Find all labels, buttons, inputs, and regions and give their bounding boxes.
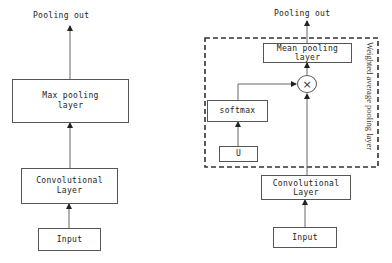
max-pooling-line2: layer (42, 101, 98, 111)
left-pooling-out-label: Pooling out (33, 11, 89, 20)
mean-pooling-layer-box: Mean pooling layer (263, 43, 352, 63)
right-conv-line2: Layer (273, 188, 340, 197)
multiply-icon: × (302, 79, 311, 90)
connector-layer (0, 0, 392, 263)
softmax-box: softmax (207, 100, 268, 122)
left-conv-line1: Convolutional (36, 176, 103, 186)
right-input-label: Input (292, 233, 318, 243)
right-conv-line1: Convolutional (273, 179, 340, 188)
arrow-softmax-to-multiply (238, 84, 296, 100)
u-label: U (236, 149, 241, 159)
mean-pooling-line1: Mean pooling (277, 44, 338, 53)
left-conv-line2: Layer (36, 186, 103, 196)
u-box: U (219, 146, 258, 162)
softmax-label: softmax (220, 106, 256, 116)
weighted-average-pooling-label: Weighted average pooling layer (365, 42, 375, 150)
mean-pooling-line2: layer (277, 53, 338, 62)
multiply-node: × (297, 75, 317, 93)
right-convolutional-layer-box: Convolutional Layer (261, 175, 351, 200)
max-pooling-line1: Max pooling (42, 91, 98, 101)
left-input-label: Input (57, 235, 83, 245)
right-pooling-out-label: Pooling out (274, 9, 330, 18)
left-input-box: Input (38, 228, 101, 251)
left-convolutional-layer-box: Convolutional Layer (21, 168, 118, 204)
right-input-box: Input (273, 227, 337, 248)
max-pooling-layer-box: Max pooling layer (12, 79, 129, 123)
